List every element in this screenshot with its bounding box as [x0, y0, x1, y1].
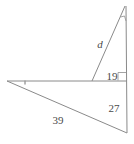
label-39: 39	[53, 114, 65, 126]
vertical-line	[126, 6, 127, 133]
right-angle-marker	[118, 73, 126, 81]
label-27: 27	[109, 102, 121, 114]
figure-canvas: d 19 27 39	[0, 0, 134, 144]
label-d: d	[97, 38, 103, 50]
geometry-figure: d 19 27 39	[0, 0, 134, 144]
apex-angle-marker	[121, 16, 127, 21]
label-19: 19	[107, 70, 119, 82]
